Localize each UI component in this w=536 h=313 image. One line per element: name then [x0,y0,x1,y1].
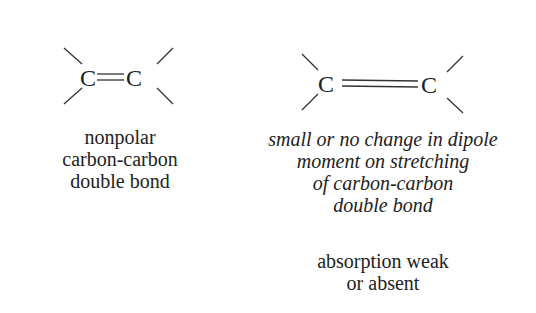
right-description: small or no change in dipole moment on s… [238,128,528,216]
description-line: small or no change in dipole [238,128,528,150]
caption-line: nonpolar [30,126,210,148]
left-carbon-2: C [126,65,142,91]
description-line: double bond [238,194,528,216]
caption-line: double bond [30,170,210,192]
description-line: of carbon-carbon [238,172,528,194]
right-carbon-2: C [421,72,437,98]
left-caption: nonpolar carbon-carbon double bond [30,126,210,192]
result-line: absorption weak [238,250,528,272]
right-carbon-1: C [318,71,334,97]
result-line: or absent [238,272,528,294]
description-line: moment on stretching [238,150,528,172]
right-result: absorption weak or absent [238,250,528,294]
left-carbon-1: C [80,65,96,91]
caption-line: carbon-carbon [30,148,210,170]
